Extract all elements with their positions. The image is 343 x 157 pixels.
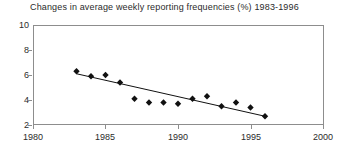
data-point xyxy=(247,104,253,110)
data-point-group xyxy=(73,68,268,119)
data-point xyxy=(73,68,79,74)
data-point xyxy=(233,99,239,105)
trend-line xyxy=(77,74,266,117)
data-point xyxy=(160,99,166,105)
data-point xyxy=(102,72,108,78)
data-point xyxy=(204,93,210,99)
data-point xyxy=(175,101,181,107)
data-point xyxy=(262,113,268,119)
data-point xyxy=(117,79,123,85)
data-point xyxy=(218,103,224,109)
data-point xyxy=(131,96,137,102)
data-point xyxy=(189,96,195,102)
data-layer xyxy=(0,0,343,157)
chart-container: Changes in average weekly reporting freq… xyxy=(0,0,343,157)
data-point xyxy=(146,99,152,105)
data-point xyxy=(88,73,94,79)
